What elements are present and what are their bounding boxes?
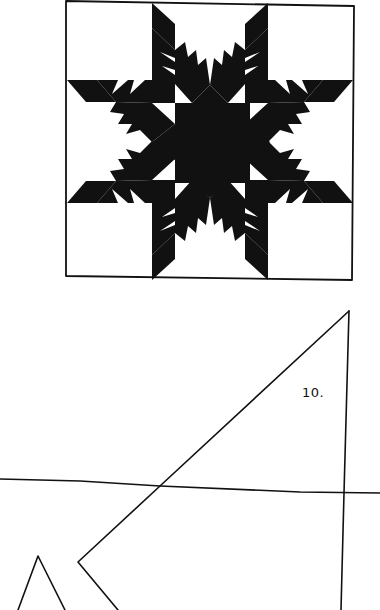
small-triangle-piece bbox=[18, 556, 65, 610]
template-piece-label: 10. bbox=[302, 385, 324, 400]
template-piece-10 bbox=[0, 311, 380, 610]
template-vertical-side bbox=[341, 311, 349, 610]
feathered-star-block bbox=[66, 1, 354, 280]
star-shapes bbox=[67, 3, 353, 280]
quilt-pattern-canvas bbox=[0, 0, 380, 610]
template-hypotenuse bbox=[78, 311, 349, 610]
guide-line bbox=[0, 479, 380, 493]
